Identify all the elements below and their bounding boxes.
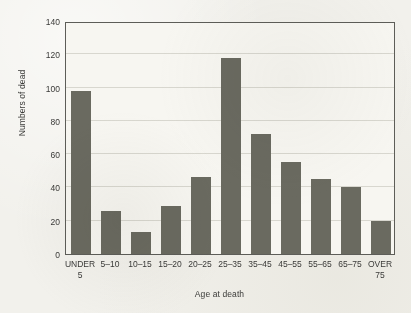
x-axis-title: Age at death (0, 289, 411, 299)
x-tick-label: 20–25 (188, 259, 212, 270)
plot-area (65, 22, 395, 255)
x-tick-label: 45–55 (278, 259, 302, 270)
bar (161, 206, 181, 254)
bar (281, 162, 301, 254)
x-tick-label: 35–45 (248, 259, 272, 270)
bars-layer (66, 23, 394, 254)
x-tick-label: 25–35 (218, 259, 242, 270)
y-tick-label: 120 (20, 50, 60, 60)
y-tick-label: 80 (20, 117, 60, 127)
bar (221, 58, 241, 254)
x-tick-label: 5–10 (101, 259, 120, 270)
x-tick-label: OVER75 (368, 259, 392, 280)
bar (341, 187, 361, 254)
bar (311, 179, 331, 254)
bar (131, 232, 151, 254)
y-tick-label: 100 (20, 84, 60, 94)
x-tick-label: UNDER5 (65, 259, 95, 280)
bar (71, 91, 91, 254)
y-tick-label: 140 (20, 17, 60, 27)
x-tick-label: 15–20 (158, 259, 182, 270)
bar-chart-figure: Numbers of dead 020406080100120140 UNDER… (0, 0, 411, 313)
y-axis-title: Numbers of dead (17, 43, 27, 163)
y-tick-label: 60 (20, 150, 60, 160)
bar (371, 221, 391, 254)
bar (191, 177, 211, 254)
y-tick-label: 0 (20, 250, 60, 260)
y-tick-label: 20 (20, 217, 60, 227)
x-tick-label: 55–65 (308, 259, 332, 270)
y-tick-label: 40 (20, 183, 60, 193)
x-axis-title-text: Age at death (195, 289, 244, 299)
x-tick-label: 10–15 (128, 259, 152, 270)
bar (101, 211, 121, 254)
bar (251, 134, 271, 254)
x-tick-label: 65–75 (338, 259, 362, 270)
